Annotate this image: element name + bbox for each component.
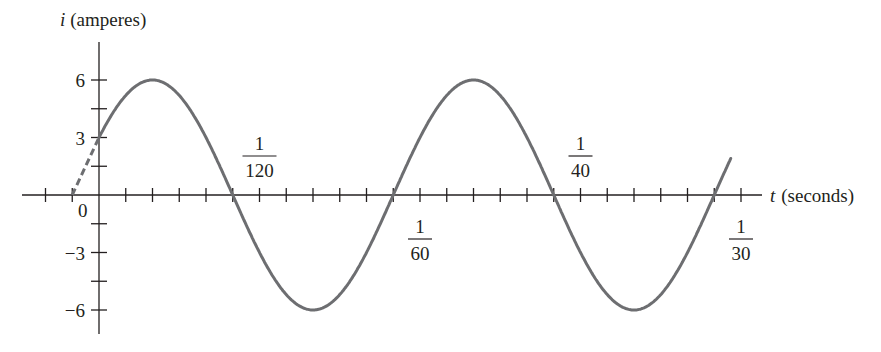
y-tick-label: −6 [65,300,85,321]
origin-label: 0 [78,200,88,221]
x-fraction-label: 140 [569,133,593,181]
svg-text:40: 40 [571,160,590,181]
y-axis-label: i(amperes) [60,9,146,31]
y-tick-label: 3 [76,128,86,149]
svg-text:1: 1 [576,133,586,154]
svg-text:1: 1 [415,216,425,237]
svg-text:30: 30 [731,243,750,264]
y-tick-label: −3 [65,243,85,264]
axes [22,42,762,334]
x-fraction-label: 130 [729,216,753,264]
y-tick-label: 6 [76,70,86,91]
x-tick-labels: 1120160140130 [242,133,753,264]
svg-text:1: 1 [255,133,265,154]
x-fraction-label: 160 [408,216,432,264]
x-fraction-label: 1120 [242,133,276,181]
svg-text:60: 60 [411,243,430,264]
svg-text:1: 1 [736,216,746,237]
sine-current-chart: i(amperes) t(seconds) 0 63−3−6 112016014… [0,0,881,352]
x-axis-label: t(seconds) [770,185,854,207]
svg-text:120: 120 [245,160,274,181]
